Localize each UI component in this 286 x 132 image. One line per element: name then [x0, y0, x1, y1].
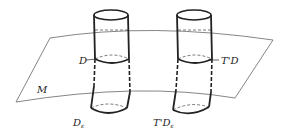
diagram: M D Dε T'D T'Dε: [0, 0, 286, 132]
label-d: D: [78, 55, 87, 66]
label-t-d-eps: T'Dε: [153, 117, 174, 129]
surface-m: [16, 30, 273, 102]
label-m: M: [36, 84, 48, 95]
left-cylinder: [91, 10, 130, 113]
label-t-d: T'D: [221, 55, 238, 66]
right-cylinder: [173, 10, 212, 113]
label-d-eps: Dε: [72, 117, 84, 129]
